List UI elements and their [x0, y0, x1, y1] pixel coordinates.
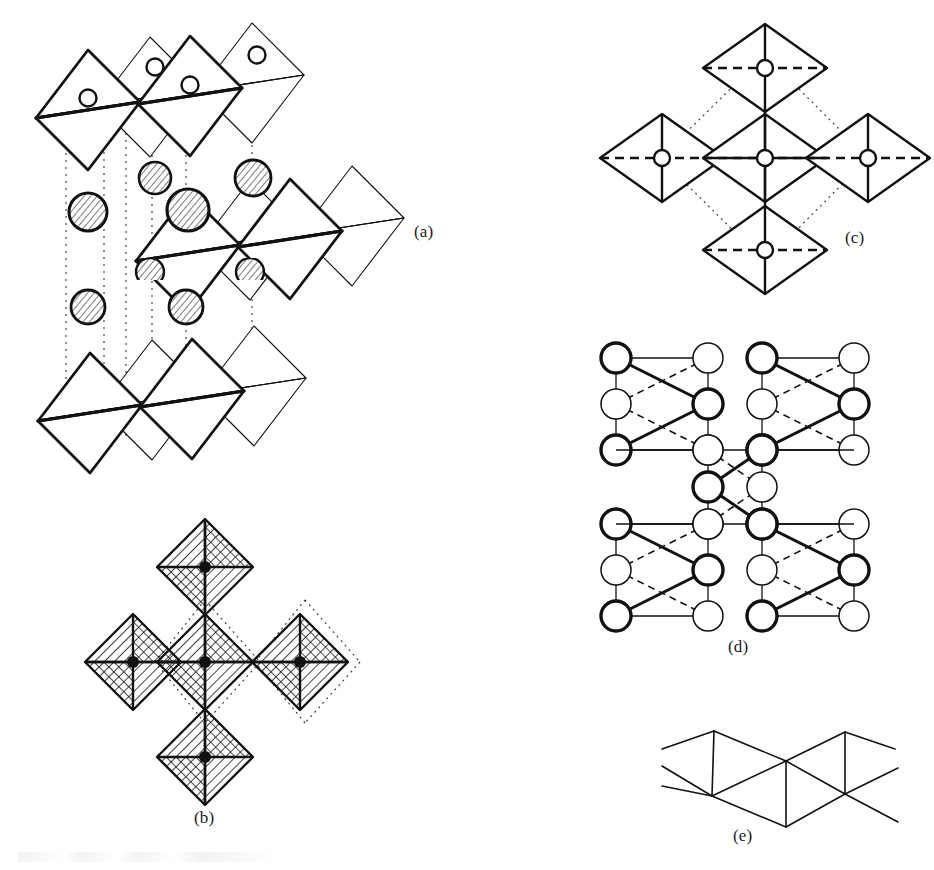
hatched-sphere-atom	[167, 189, 209, 231]
lattice-circle-bold	[693, 555, 723, 585]
panel-a-middle-layer	[136, 166, 404, 313]
filled-dot-atom	[199, 751, 211, 763]
panel-d	[601, 343, 869, 631]
panel-a-top-layer	[36, 23, 304, 170]
lattice-circle-thin	[693, 601, 723, 631]
lattice-circle-thin	[747, 555, 777, 585]
lattice-circle-bold	[693, 389, 723, 419]
open-circle-atom	[654, 150, 670, 166]
open-circle-atom	[860, 150, 876, 166]
hatched-sphere-atom	[169, 290, 203, 324]
panel-label-d: (d)	[728, 637, 748, 657]
filled-dot-atom	[199, 656, 211, 668]
lattice-circle-bold	[747, 601, 777, 631]
open-circle-atom	[182, 77, 199, 94]
open-circle-atom	[757, 242, 773, 258]
panel-e	[662, 731, 898, 827]
panel-a-bottom-layer	[38, 326, 306, 473]
lattice-circle-bold	[747, 343, 777, 373]
open-circle-atom	[147, 59, 164, 76]
lattice-circle-thin	[693, 509, 723, 539]
filled-dot-atom	[127, 656, 139, 668]
lattice-circle-bold	[601, 601, 631, 631]
open-circle-atom	[757, 150, 773, 166]
lattice-circle-bold	[693, 472, 723, 502]
lattice-circle-bold	[839, 555, 869, 585]
open-circle-atom	[249, 47, 266, 64]
open-circle-atom	[757, 60, 773, 76]
figure-root: (a) (b) (c) (d) (e)	[0, 0, 934, 870]
panel-label-e: (e)	[733, 826, 752, 846]
panel-label-a: (a)	[414, 222, 433, 242]
lattice-circle-bold	[747, 509, 777, 539]
lattice-circle-thin	[601, 555, 631, 585]
lattice-circle-thin	[601, 389, 631, 419]
filled-dot-atom	[199, 561, 211, 573]
lattice-circle-bold	[747, 435, 777, 465]
lattice-circle-bold	[601, 343, 631, 373]
lattice-circle-thin	[693, 435, 723, 465]
hatched-sphere-atom	[71, 290, 105, 324]
lattice-circle-thin	[747, 472, 777, 502]
lattice-circle-thin	[839, 343, 869, 373]
lattice-circle-thin	[839, 601, 869, 631]
panel-c	[600, 24, 930, 294]
hatched-sphere-atom	[235, 160, 271, 196]
panel-b	[85, 519, 360, 805]
open-circle-atom	[80, 90, 97, 107]
panel-label-c: (c)	[845, 228, 864, 248]
panel-a	[36, 23, 404, 473]
panel-label-b: (b)	[194, 808, 214, 828]
lattice-circle-thin	[693, 343, 723, 373]
lattice-circle-bold	[839, 389, 869, 419]
hatched-sphere-atom	[69, 193, 107, 231]
figure-canvas	[0, 0, 934, 870]
filled-dot-atom	[294, 656, 306, 668]
lattice-circle-thin	[747, 389, 777, 419]
hatched-sphere-atom	[139, 162, 171, 194]
panel-d-central-bridge	[616, 435, 854, 539]
